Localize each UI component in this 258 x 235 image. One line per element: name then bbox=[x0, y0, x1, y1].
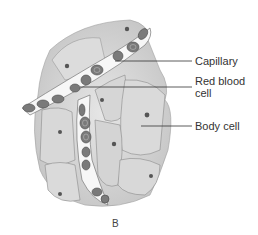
capillary-diagram bbox=[0, 0, 258, 235]
panel-letter: B bbox=[112, 218, 119, 229]
label-red-blood-cell-line2: cell bbox=[195, 88, 212, 99]
label-body-cell: Body cell bbox=[195, 121, 240, 132]
label-red-blood-cell-line1: Red blood bbox=[195, 76, 245, 87]
body-cell-cluster bbox=[34, 20, 170, 206]
label-capillary: Capillary bbox=[195, 56, 238, 67]
